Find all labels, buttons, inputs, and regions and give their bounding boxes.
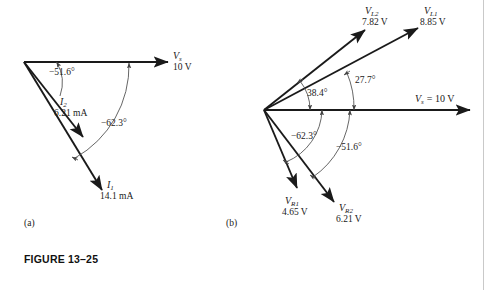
label-vs-b-value: = 10 V <box>427 93 455 104</box>
panel-b-vectors <box>264 28 470 202</box>
angle-label-51-6-a: −51.6° <box>49 67 75 77</box>
label-vr1-magnitude: 4.65 V <box>282 207 308 217</box>
figure-caption: FIGURE 13–25 <box>24 253 98 265</box>
panel-b-label: (b) <box>226 218 237 228</box>
angle-arc-27-7-tail <box>344 71 350 75</box>
label-vs-b: Vs= 10 V <box>415 94 455 106</box>
angle-label-62-3-a: −62.3° <box>101 118 127 128</box>
phasor-diagram-artwork <box>0 0 494 290</box>
angle-label-51-6-b: −51.6° <box>336 142 362 152</box>
label-i2-magnitude: 6.21 mA <box>54 108 87 118</box>
angle-arc-62-3-a-tail <box>72 157 78 160</box>
label-vs-b-sub: s <box>421 98 424 106</box>
label-vl1-magnitude: 8.85 V <box>420 17 446 27</box>
page-vertical-rule <box>483 0 484 290</box>
angle-label-38-4: 38.4° <box>307 88 327 98</box>
vector-vr2 <box>264 110 334 202</box>
angle-arc-27-7 <box>347 73 354 110</box>
figure-page: Vs 10 V I2 6.21 mA I1 14.1 mA −51.6° −62… <box>0 0 494 290</box>
vector-vr1 <box>264 110 297 188</box>
panel-a-vectors <box>24 62 168 190</box>
vector-i1 <box>24 62 102 190</box>
label-vr2-magnitude: 6.21 V <box>336 214 362 224</box>
angle-label-62-3-b: −62.3° <box>291 131 317 141</box>
vector-vl1 <box>264 28 418 110</box>
panel-a-label: (a) <box>24 218 35 228</box>
angle-label-27-7: 27.7° <box>355 75 375 85</box>
label-vs-a-magnitude: 10 V <box>173 62 192 72</box>
label-i1-magnitude: 14.1 mA <box>100 191 133 201</box>
label-vl2-magnitude: 7.82 V <box>362 17 388 27</box>
